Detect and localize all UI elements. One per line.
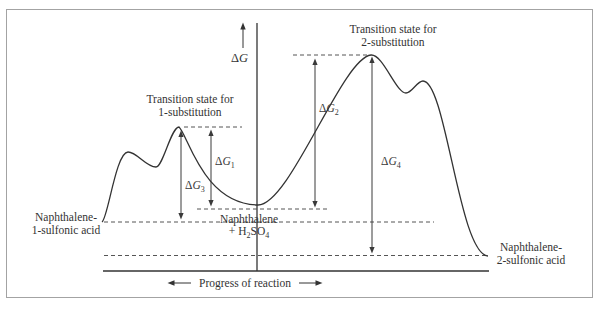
reactant-label-line2: + H2SO4 [199, 225, 299, 237]
arrow-left-icon [166, 278, 192, 288]
delta-g1-label: ΔG1 [215, 155, 235, 167]
delta-g3-label: ΔG3 [185, 179, 205, 191]
product2-label-line1: Naphthalene- [481, 241, 581, 254]
delta-g4-arrow [369, 57, 374, 254]
x-axis-caption: Progress of reaction [140, 275, 350, 291]
ts2-label: Transition state for 2-substitution [320, 23, 466, 49]
y-axis-label: ΔG [231, 51, 248, 66]
delta-g2-label: ΔG2 [319, 102, 339, 114]
delta-g1-arrow [208, 130, 213, 207]
ts2-label-line2: 2-substitution [320, 36, 466, 49]
arrow-right-icon [298, 278, 324, 288]
delta-g3-arrow [178, 131, 183, 220]
ts1-label: Transition state for 1-substitution [117, 93, 263, 119]
delta-g4-label: ΔG4 [381, 155, 401, 167]
product1-label-line1: Naphthalene- [16, 211, 116, 224]
ts2-label-line1: Transition state for [320, 23, 466, 36]
reactant-label-line1: Naphthalene [199, 213, 299, 225]
x-axis-caption-text: Progress of reaction [199, 277, 291, 289]
energy-diagram: ΔG Transition state for 1-substitution T… [0, 0, 603, 312]
ts1-label-line2: 1-substitution [117, 106, 263, 119]
reactant-label: Naphthalene + H2SO4 [199, 213, 299, 237]
ts1-label-line1: Transition state for [117, 93, 263, 106]
product2-label-line2: 2-sulfonic acid [481, 254, 581, 267]
y-axis-arrow-icon [240, 23, 245, 49]
product1-label-line2: 1-sulfonic acid [16, 224, 116, 237]
product1-label: Naphthalene- 1-sulfonic acid [16, 211, 116, 237]
delta-g2-arrow [312, 59, 317, 208]
product2-label: Naphthalene- 2-sulfonic acid [481, 241, 581, 267]
